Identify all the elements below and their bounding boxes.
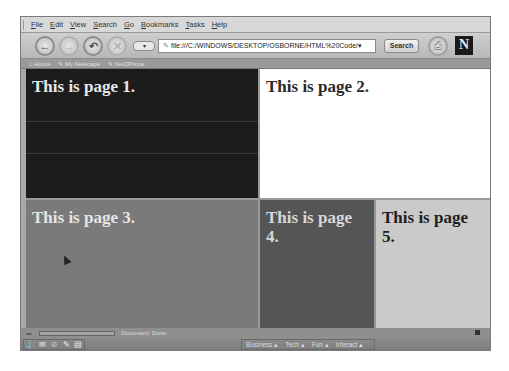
scanline: [26, 121, 258, 122]
bookmark-net2phone[interactable]: ✎ Net2Phone: [108, 60, 145, 67]
forward-button[interactable]: →: [59, 36, 79, 56]
status-text: Document: Done: [121, 330, 166, 336]
quick-links: Business ▴ Tech ▴ Fun ▴ Interact ▴: [241, 339, 375, 350]
frame-3-heading: This is page 3.: [32, 208, 135, 227]
menu-tasks[interactable]: Tasks: [186, 20, 205, 29]
menu-edit[interactable]: Edit: [50, 20, 63, 29]
frame-page-1: This is page 1.: [26, 69, 258, 198]
menu-bar: File Edit View Search Go Bookmarks Tasks…: [21, 17, 490, 33]
menu-file[interactable]: File: [31, 20, 43, 29]
scanline: [26, 153, 258, 154]
stop-icon: ✕: [113, 40, 122, 53]
history-dropdown-button[interactable]: ▾: [133, 41, 155, 51]
frame-4-heading: This is page 4.: [266, 208, 352, 246]
print-icon: ⎙: [434, 40, 442, 51]
menu-help[interactable]: Help: [212, 20, 227, 29]
menu-view[interactable]: View: [70, 20, 86, 29]
frame-5-heading: This is page 5.: [382, 208, 468, 246]
print-button[interactable]: ⎙: [428, 36, 448, 56]
link-fun[interactable]: Fun ▴: [312, 341, 329, 349]
composer-icon[interactable]: ✎: [60, 340, 72, 349]
progress-bar: [39, 331, 115, 336]
menu-search[interactable]: Search: [93, 20, 117, 29]
status-bar: ═ Document: Done: [21, 328, 490, 338]
menu-go[interactable]: Go: [124, 20, 134, 29]
navigator-icon[interactable]: ⚓: [24, 340, 36, 349]
frame-page-3: This is page 3.: [26, 200, 258, 328]
component-icons: ⚓ ✉ ☺ ✎ ▤: [23, 339, 85, 350]
menubar-grip[interactable]: [23, 20, 26, 30]
frame-page-4: This is page 4.: [260, 200, 374, 328]
reload-button[interactable]: ↶: [83, 36, 103, 56]
navigation-toolbar: ← → ↶ ✕ ▾ ✎file:///C:/WINDOWS/DESKTOP/OS…: [21, 33, 490, 59]
security-lock-icon[interactable]: [475, 330, 480, 335]
netscape-logo[interactable]: N: [455, 36, 473, 55]
personal-toolbar: ⌂ Home ✎ My Netscape ✎ Net2Phone: [21, 59, 490, 69]
reload-icon: ↶: [89, 40, 98, 53]
frame-1-heading: This is page 1.: [32, 77, 135, 96]
bookmark-my-netscape[interactable]: ✎ My Netscape: [58, 60, 100, 67]
link-business[interactable]: Business ▴: [246, 341, 278, 349]
instant-messenger-icon[interactable]: ☺: [48, 340, 60, 349]
menu-bookmarks[interactable]: Bookmarks: [141, 20, 179, 29]
url-input[interactable]: ✎file:///C:/WINDOWS/DESKTOP/OSBORNE/HTML…: [158, 39, 376, 53]
frame-page-2: This is page 2.: [260, 69, 490, 198]
forward-arrow-icon: →: [64, 40, 75, 52]
url-text: file:///C:/WINDOWS/DESKTOP/OSBORNE/HTML%…: [171, 42, 358, 49]
frameset-content: This is page 1. This is page 2. This is …: [26, 69, 490, 328]
link-interact[interactable]: Interact ▴: [336, 341, 363, 349]
mail-icon[interactable]: ✉: [36, 340, 48, 349]
frame-2-heading: This is page 2.: [266, 77, 369, 96]
link-tech[interactable]: Tech ▴: [285, 341, 305, 349]
search-button[interactable]: Search: [384, 39, 419, 53]
mouse-cursor-icon: [60, 254, 71, 266]
url-dropdown-icon[interactable]: ▾: [358, 42, 362, 49]
chevron-down-icon: ▾: [143, 43, 146, 49]
back-button[interactable]: ←: [35, 36, 55, 56]
address-book-icon[interactable]: ▤: [72, 340, 84, 349]
stop-button[interactable]: ✕: [107, 36, 127, 56]
bookmark-home[interactable]: ⌂ Home: [29, 61, 50, 67]
back-arrow-icon: ←: [40, 40, 51, 52]
frame-page-5: This is page 5.: [376, 200, 490, 328]
component-bar: ⚓ ✉ ☺ ✎ ▤ Business ▴ Tech ▴ Fun ▴ Intera…: [21, 338, 490, 351]
page-proxy-icon[interactable]: ✎: [163, 42, 169, 49]
browser-window: File Edit View Search Go Bookmarks Tasks…: [20, 16, 491, 351]
connection-icon[interactable]: ═: [21, 330, 37, 337]
